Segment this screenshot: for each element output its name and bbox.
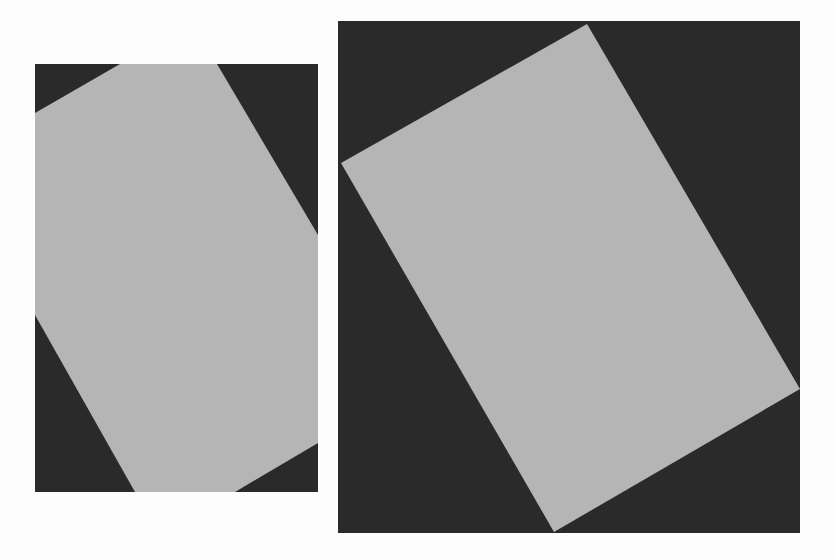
right-rotated-rectangle-graphic [338, 21, 800, 533]
panel-right-image [338, 21, 800, 533]
left-rotated-rectangle-graphic [35, 64, 318, 492]
panel-left-image [35, 64, 318, 492]
figure [0, 0, 834, 560]
